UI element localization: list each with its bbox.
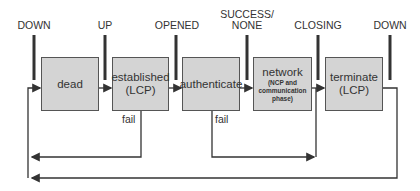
fail-established-label: fail [122,113,135,125]
state-dead-label: dead [57,78,83,91]
ppp-phase-diagram: DOWN UP OPENED SUCCESS/ NONE CLOSING DOW… [0,0,420,191]
state-authenticate: authenticate [182,57,240,111]
state-terminate: terminate (LCP) [325,57,383,111]
state-established-label: established (LCP) [111,71,169,97]
event-opened-label: OPENED [155,20,199,31]
state-terminate-label: terminate (LCP) [330,71,378,97]
state-network-label: network [262,66,302,79]
event-success-none-label: SUCCESS/ NONE [220,9,274,31]
state-network: network (NCP and communication phase) [253,57,312,111]
state-network-sublabel: (NCP and communication phase) [258,79,306,103]
state-authenticate-label: authenticate [180,78,243,91]
fail-authenticate-label: fail [215,113,228,125]
event-down-end-label: DOWN [373,20,406,31]
event-closing-label: CLOSING [294,20,341,31]
event-down-label: DOWN [17,20,50,31]
state-established: established (LCP) [112,57,169,111]
event-up-label: UP [98,20,113,31]
state-dead: dead [41,57,99,111]
